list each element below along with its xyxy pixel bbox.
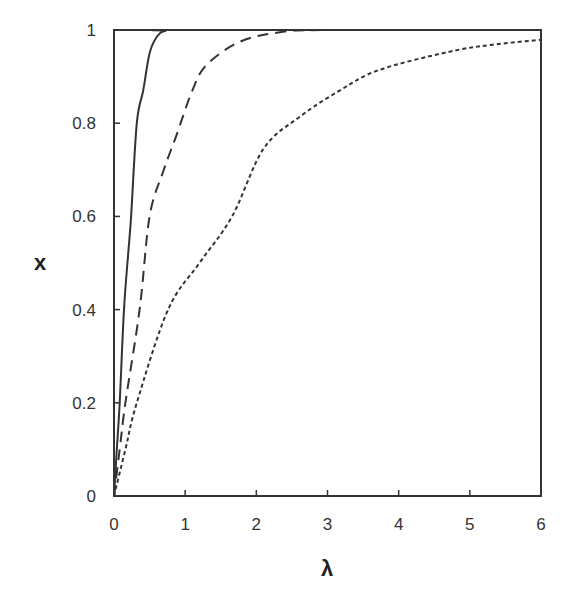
x-tick-label: 4 [394,515,403,534]
y-tick-label: 0.8 [72,114,96,133]
curves [114,30,541,496]
x-tick-label: 5 [465,515,474,534]
series-dotted-curve [114,40,541,496]
y-tick-label: 0.6 [72,207,96,226]
x-tick-label: 3 [323,515,332,534]
series-solid-curve [114,30,541,496]
y-axis-label: x [34,250,47,275]
y-tick-label: 0.4 [72,301,96,320]
plot-frame [114,30,541,496]
y-axis-ticks: 00.20.40.60.81 [72,21,120,506]
y-tick-label: 1 [87,21,96,40]
series-dashed-curve [114,30,541,496]
plot-area: 0123456 00.20.40.60.81 [72,21,545,534]
x-tick-label: 1 [180,515,189,534]
x-tick-label: 2 [252,515,261,534]
line-chart: 0123456 00.20.40.60.81 λ x [0,0,570,593]
y-tick-label: 0 [87,487,96,506]
y-tick-label: 0.2 [72,394,96,413]
x-tick-label: 6 [536,515,545,534]
x-tick-label: 0 [109,515,118,534]
x-axis-label: λ [321,556,333,581]
